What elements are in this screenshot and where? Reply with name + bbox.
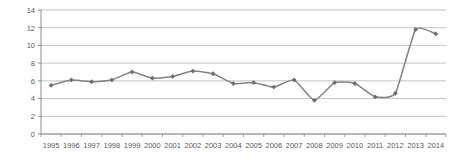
chart-canvas: 02468101214 1995199619971998199920002001…: [0, 0, 455, 163]
x-tick-label: 2000: [144, 141, 161, 150]
x-tick-marks: [41, 134, 446, 137]
x-tick-label: 2007: [286, 141, 303, 150]
x-tick-label: 1998: [104, 141, 121, 150]
x-tick-label: 2012: [387, 141, 404, 150]
x-tick-label: 2006: [266, 141, 283, 150]
x-tick-label: 2010: [347, 141, 364, 150]
y-tick-label: 4: [31, 94, 35, 103]
x-tick-label: 2011: [367, 141, 383, 150]
y-tick-label: 8: [31, 59, 35, 68]
x-tick-label: 2008: [306, 141, 323, 150]
line-chart: 02468101214 1995199619971998199920002001…: [0, 0, 455, 163]
x-tick-label: 2013: [407, 141, 424, 150]
x-tick-label: 2001: [164, 141, 181, 150]
y-tick-label: 2: [31, 112, 35, 121]
y-tick-label: 0: [31, 130, 35, 139]
x-tick-label: 1999: [124, 141, 141, 150]
x-tick-label: 1995: [43, 141, 60, 150]
x-tick-label: 2009: [326, 141, 343, 150]
x-tick-label: 2014: [428, 141, 445, 150]
x-tick-label: 2002: [185, 141, 202, 150]
y-tick-label: 6: [31, 77, 35, 86]
x-tick-label: 1996: [63, 141, 80, 150]
x-tick-label: 1997: [83, 141, 100, 150]
x-tick-label: 2003: [205, 141, 222, 150]
y-tick-label: 14: [27, 6, 35, 15]
x-tick-label: 2004: [225, 141, 242, 150]
y-tick-label: 12: [27, 24, 35, 33]
x-tick-label: 2005: [245, 141, 262, 150]
y-tick-label: 10: [27, 41, 35, 50]
